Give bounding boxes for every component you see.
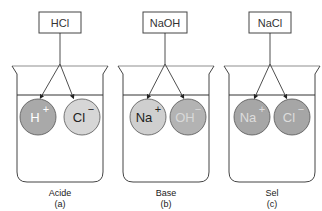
- ion-label: Na: [136, 110, 153, 125]
- caption-acid: Acide (a): [20, 188, 100, 210]
- dissociation-diagram: HCl H + Cl − NaOH Na + OH − NaCl: [0, 0, 322, 211]
- compound-label: HCl: [51, 17, 69, 29]
- compound-label: NaOH: [150, 17, 181, 29]
- svg-text:−: −: [195, 103, 201, 115]
- compound-label: NaCl: [258, 17, 282, 29]
- ion-label: Cl: [283, 110, 295, 125]
- ion-label: Cl: [73, 110, 85, 125]
- svg-text:+: +: [155, 103, 161, 115]
- caption-base: Base (b): [126, 188, 206, 210]
- caption-salt: Sel (c): [232, 188, 312, 210]
- svg-text:+: +: [259, 103, 265, 115]
- panel-base: NaOH Na + OH −: [118, 12, 214, 182]
- panel-salt: NaCl Na + Cl −: [224, 12, 320, 182]
- svg-text:+: +: [43, 103, 49, 115]
- ion-label: H: [30, 110, 39, 125]
- panel-acid: HCl H + Cl −: [12, 12, 108, 182]
- svg-text:−: −: [298, 103, 304, 115]
- ion-label: Na: [240, 110, 257, 125]
- ion-label: OH: [175, 110, 195, 125]
- svg-text:−: −: [88, 103, 94, 115]
